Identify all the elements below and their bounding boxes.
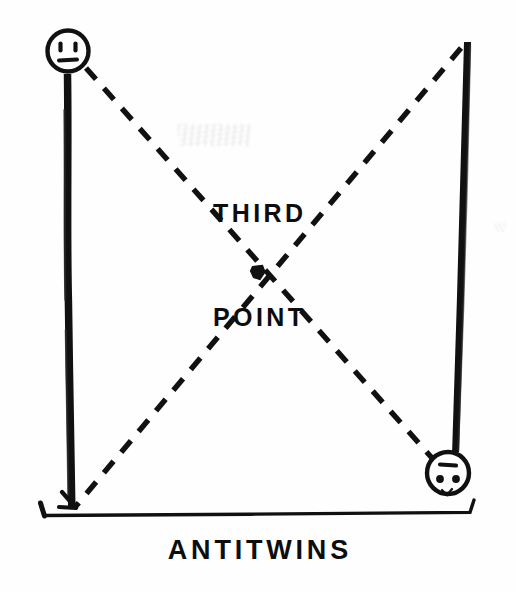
span-bracket — [40, 500, 474, 516]
third-point-dot — [251, 266, 266, 280]
caption-antitwins: ANTITWINS — [0, 535, 516, 566]
label-third: THIRD — [0, 199, 516, 228]
span-bracket-left-tick-thick — [41, 503, 45, 516]
diagram-canvas: THIRD POINT ANTITWINS — [0, 0, 516, 592]
face-mouth-inverted — [440, 465, 456, 466]
face-eye-left-inverted — [436, 475, 444, 483]
inverted-neutral-face-icon — [427, 452, 469, 495]
face-eye-right-inverted — [452, 475, 460, 483]
face-mouth-neutral — [59, 60, 77, 61]
dashed-diagonal-upper-left-to-lower-right — [86, 68, 432, 458]
antitwins-figure — [0, 0, 516, 592]
dashed-diagonal-upper-right-to-lower-left — [76, 48, 461, 506]
upright-neutral-face-icon — [48, 31, 89, 72]
label-point: POINT — [0, 303, 516, 332]
